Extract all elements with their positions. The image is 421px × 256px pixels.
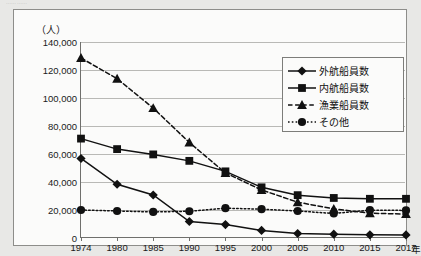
legend-marker-triangle-icon [287, 98, 317, 112]
chart-legend: 外航船員数内航船員数漁業船員数その他 [282, 57, 404, 132]
x-axis-tick-label: 2005 [287, 242, 308, 253]
series-square [77, 135, 410, 203]
legend-item[interactable]: 漁業船員数 [287, 96, 403, 113]
legend-marker-square-icon [287, 81, 317, 95]
legend-label: 内航船員数 [319, 80, 369, 95]
x-axis-tick-label: 1980 [107, 242, 128, 253]
x-axis-tick-label: 2000 [251, 242, 272, 253]
legend-item[interactable]: 外航船員数 [287, 62, 403, 79]
x-axis-tick-label: 1974 [70, 242, 91, 253]
legend-item[interactable]: 内航船員数 [287, 79, 403, 96]
y-axis-tick-label: 100,000 [43, 93, 77, 104]
y-axis-tick-label: 60,000 [48, 149, 77, 160]
top-text-fragment: ⋯⋯ ⋯⋯ [6, 0, 126, 6]
x-axis-tick-label: 2015 [359, 242, 380, 253]
x-axis-tick-label: 1985 [143, 242, 164, 253]
legend-label: その他 [319, 114, 349, 129]
x-axis-unit-label: 年 [411, 242, 421, 256]
y-axis-tick-label: 140,000 [43, 37, 77, 48]
y-axis-tick-label: 40,000 [48, 177, 77, 188]
legend-label: 外航船員数 [319, 63, 369, 78]
y-axis-unit-label: （人） [36, 22, 66, 37]
legend-marker-diamond-icon [287, 64, 317, 78]
y-axis-tick-label: 80,000 [48, 121, 77, 132]
y-axis-tick-label: 20,000 [48, 205, 77, 216]
y-axis-tick-label: 120,000 [43, 65, 77, 76]
series-diamond [76, 154, 410, 240]
series-circle [77, 204, 410, 218]
legend-label: 漁業船員数 [319, 97, 369, 112]
x-axis-tick-label: 1990 [179, 242, 200, 253]
x-axis-tick-label: 1995 [215, 242, 236, 253]
legend-marker-circle-icon [287, 115, 317, 129]
x-axis-tick-label: 2010 [323, 242, 344, 253]
legend-item[interactable]: その他 [287, 113, 403, 130]
figure-frame: （人） 020,00040,00060,00080,000100,000120,… [13, 9, 407, 246]
